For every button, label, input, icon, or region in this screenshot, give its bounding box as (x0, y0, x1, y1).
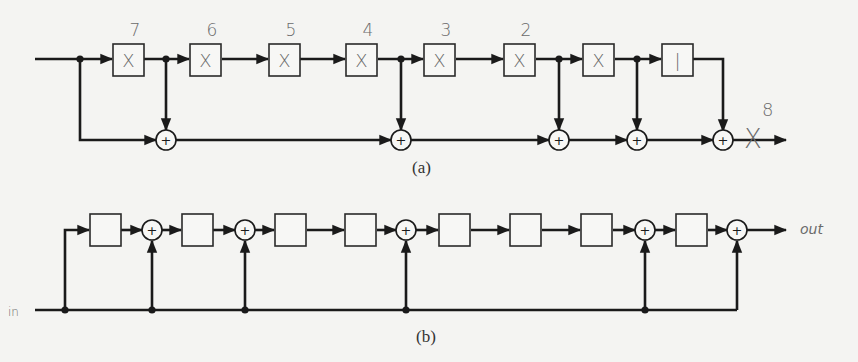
caption-b: (b) (416, 327, 436, 346)
adder-b-4: + (635, 220, 655, 240)
adder-a-3: + (549, 130, 569, 150)
plus-icon: + (732, 223, 743, 238)
adder-a-4: + (627, 130, 647, 150)
delay-cell-b-3 (275, 214, 306, 246)
cell-annotation: 5 (286, 20, 297, 40)
plus-icon: + (718, 133, 729, 148)
output-annotation: X (744, 124, 762, 154)
junction-dot (397, 55, 404, 62)
adder-b-3: + (396, 220, 416, 240)
delay-cell-a-8: | (662, 44, 693, 76)
diagram-b-wires (35, 230, 786, 310)
delay-cell-b-2 (182, 214, 213, 246)
delay-cell-a-1: X7 (113, 20, 144, 76)
delay-cell-b-1 (90, 214, 121, 246)
delay-cell-b-5 (439, 214, 470, 246)
delay-cell-b-6 (510, 214, 541, 246)
plus-icon: + (161, 133, 172, 148)
junction-dot (61, 306, 68, 313)
input-label: in (8, 305, 19, 319)
output-exponent: 8 (762, 99, 773, 120)
caption-a: (a) (412, 158, 431, 177)
junction-dot (76, 55, 83, 62)
junction-dot (402, 306, 409, 313)
feedback-shift-register-diagrams: X7X6X5X4X3X2X| +++++ X 8 (a) (0, 0, 858, 362)
adder-b-5: + (727, 220, 747, 240)
diagram-a: X7X6X5X4X3X2X| +++++ X 8 (a) (35, 20, 786, 177)
junction-dot (148, 306, 155, 313)
delay-cell-b-4 (345, 214, 376, 246)
delay-cell-b-7 (581, 214, 612, 246)
diagram-b: +++++ in out (b) (8, 214, 823, 346)
delay-cell-a-2: X6 (190, 20, 221, 76)
cell-mark: X (122, 50, 134, 71)
cell-annotation: 7 (130, 20, 141, 40)
plus-icon: + (554, 133, 565, 148)
plus-icon: + (147, 223, 158, 238)
junction-dot (162, 55, 169, 62)
cell-mark: X (199, 50, 211, 71)
cell-mark: X (513, 50, 525, 71)
cell-annotation: 3 (441, 20, 452, 40)
cell-annotation: 6 (207, 20, 218, 40)
adder-a-2: + (391, 130, 411, 150)
adder-b-2: + (235, 220, 255, 240)
plus-icon: + (632, 133, 643, 148)
junction-dot (633, 55, 640, 62)
junction-dot (641, 306, 648, 313)
delay-cell-a-6: X2 (504, 20, 535, 76)
delay-cell-a-3: X5 (269, 20, 300, 76)
delay-cell-b-8 (676, 214, 707, 246)
delay-cell-a-4: X4 (346, 20, 377, 76)
plus-icon: + (401, 223, 412, 238)
plus-icon: + (396, 133, 407, 148)
cell-annotation: 2 (521, 20, 532, 40)
cell-mark: X (592, 50, 604, 71)
adder-a-5: + (713, 130, 733, 150)
plus-icon: + (240, 223, 251, 238)
cell-mark: X (433, 50, 445, 71)
junction-dot (241, 306, 248, 313)
cell-mark: X (278, 50, 290, 71)
diagram-a-delay-cells: X7X6X5X4X3X2X| (113, 20, 693, 76)
delay-cell-a-7: X (583, 44, 614, 76)
plus-icon: + (640, 223, 651, 238)
cell-annotation: 4 (363, 20, 374, 40)
cell-mark: | (674, 50, 680, 71)
delay-cell-a-5: X3 (424, 20, 455, 76)
output-label: out (800, 221, 823, 237)
adder-b-1: + (142, 220, 162, 240)
junction-dot (555, 55, 562, 62)
cell-mark: X (355, 50, 367, 71)
adder-a-1: + (156, 130, 176, 150)
